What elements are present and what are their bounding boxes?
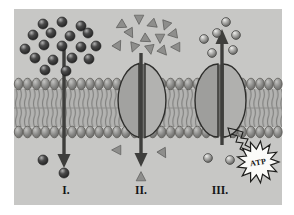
phospholipid-head bbox=[32, 78, 41, 90]
phospholipid-head bbox=[41, 126, 50, 138]
phospholipid-head bbox=[265, 126, 274, 138]
solute-sphere-dark bbox=[39, 40, 49, 50]
solute-sphere-dark bbox=[28, 30, 38, 40]
phospholipid-head bbox=[50, 78, 59, 90]
solute-sphere-dark bbox=[57, 17, 67, 27]
phospholipid-head bbox=[86, 126, 95, 138]
phospholipid-head bbox=[184, 78, 193, 90]
phospholipid-head bbox=[23, 126, 32, 138]
solute-sphere-light bbox=[208, 49, 217, 58]
solute-sphere-light bbox=[200, 35, 209, 44]
solute-sphere-dark bbox=[65, 31, 75, 41]
solute-sphere-dark bbox=[67, 53, 77, 63]
phospholipid-head bbox=[77, 78, 86, 90]
section-1-label: I. bbox=[62, 184, 69, 196]
phospholipid-head bbox=[175, 126, 184, 138]
section-3-label: III. bbox=[212, 184, 228, 196]
solute-sphere-light bbox=[232, 31, 241, 40]
solute-sphere-light bbox=[229, 46, 238, 55]
phospholipid-head bbox=[193, 126, 202, 138]
phospholipid-head bbox=[50, 126, 59, 138]
phospholipid-head bbox=[14, 78, 23, 90]
solute-sphere-light bbox=[204, 154, 213, 163]
phospholipid-head bbox=[256, 78, 265, 90]
phospholipid-head bbox=[265, 78, 274, 90]
phospholipid-head bbox=[247, 126, 256, 138]
solute-sphere-dark bbox=[57, 41, 67, 51]
phospholipid-head bbox=[95, 78, 104, 90]
phospholipid-head bbox=[23, 78, 32, 90]
solute-sphere-dark bbox=[30, 53, 40, 63]
solute-sphere-dark bbox=[40, 65, 50, 75]
solute-sphere-dark bbox=[48, 55, 58, 65]
phospholipid-head bbox=[274, 126, 283, 138]
phospholipid-head bbox=[256, 126, 265, 138]
phospholipid-head bbox=[274, 78, 283, 90]
phospholipid-head bbox=[104, 126, 113, 138]
phospholipid-head bbox=[113, 126, 122, 138]
membrane-transport-diagram: ATP I. II. III. bbox=[0, 0, 294, 215]
phospholipid-head bbox=[68, 126, 77, 138]
phospholipid-head bbox=[14, 126, 23, 138]
solute-sphere-light bbox=[213, 29, 222, 38]
solute-sphere-dark bbox=[61, 66, 71, 76]
solute-sphere-light bbox=[222, 18, 231, 27]
phospholipid-head bbox=[68, 78, 77, 90]
phospholipid-head bbox=[104, 78, 113, 90]
phospholipid-head bbox=[175, 78, 184, 90]
solute-sphere-dark bbox=[38, 155, 48, 165]
phospholipid-head bbox=[32, 126, 41, 138]
solute-sphere-light bbox=[226, 156, 235, 165]
phospholipid-head bbox=[166, 78, 175, 90]
solute-sphere-dark bbox=[38, 19, 48, 29]
phospholipid-head bbox=[184, 126, 193, 138]
solute-sphere-dark bbox=[59, 168, 69, 178]
phospholipid-head bbox=[77, 126, 86, 138]
section-2-label: II. bbox=[135, 184, 147, 196]
phospholipid-head bbox=[247, 78, 256, 90]
solute-sphere-dark bbox=[46, 28, 56, 38]
phospholipid-head bbox=[86, 78, 95, 90]
phospholipid-head bbox=[95, 126, 104, 138]
solute-sphere-dark bbox=[76, 42, 86, 52]
diagram-canvas: ATP I. II. III. bbox=[0, 0, 294, 215]
phospholipid-head bbox=[41, 78, 50, 90]
solute-sphere-dark bbox=[91, 41, 101, 51]
solute-sphere-dark bbox=[84, 54, 94, 64]
phospholipid-head bbox=[166, 126, 175, 138]
solute-sphere-dark bbox=[83, 28, 93, 38]
solute-sphere-dark bbox=[20, 44, 30, 54]
